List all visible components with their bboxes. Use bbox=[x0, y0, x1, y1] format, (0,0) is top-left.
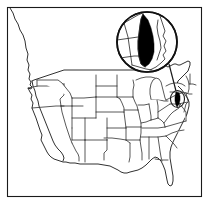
figure-root: Map of the contiguous United States Stat… bbox=[0, 0, 210, 209]
us-map-graphic bbox=[0, 0, 210, 209]
magnifier-inset-group bbox=[117, 11, 177, 72]
